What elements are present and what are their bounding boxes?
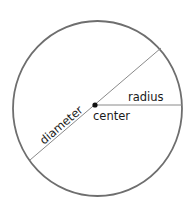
diameter-label: diameter: [37, 103, 86, 148]
center-label: center: [93, 109, 130, 123]
circle-diagram: radius center diameter: [0, 0, 191, 210]
radius-label: radius: [128, 90, 164, 104]
center-dot: [92, 102, 97, 107]
